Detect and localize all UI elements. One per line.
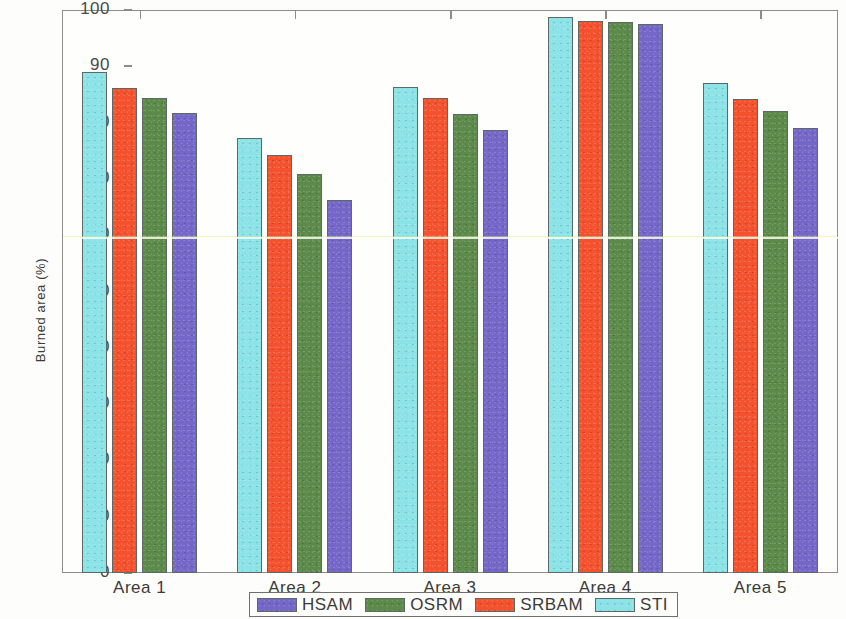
- legend-label-srbam: SRBAM: [520, 595, 583, 615]
- legend-entry-srbam: SRBAM: [475, 595, 583, 615]
- bar-osrm-area-4: [608, 22, 633, 573]
- x-axis-tick-mark-top: [450, 10, 452, 19]
- legend-entry-hsam: HSAM: [257, 595, 353, 615]
- bar-sti-area-1: [82, 72, 107, 573]
- legend-label-sti: STI: [640, 595, 668, 615]
- legend-entry-sti: STI: [595, 595, 668, 615]
- bar-hsam-area-3: [483, 130, 508, 573]
- legend-swatch-sti: [595, 598, 635, 612]
- chart-legend: HSAMOSRMSRBAMSTI: [249, 592, 678, 617]
- legend-label-osrm: OSRM: [410, 595, 463, 615]
- legend-label-hsam: HSAM: [302, 595, 353, 615]
- bar-hsam-area-2: [327, 200, 352, 573]
- bar-srbam-area-2: [267, 155, 292, 573]
- bar-hsam-area-4: [638, 24, 663, 573]
- y-axis-tick-mark: [124, 65, 132, 67]
- bar-sti-area-3: [393, 87, 418, 573]
- legend-entry-osrm: OSRM: [365, 595, 463, 615]
- x-axis-label: Area 5: [734, 578, 787, 598]
- x-axis-tick-mark-top: [140, 10, 142, 19]
- bar-osrm-area-2: [297, 174, 322, 573]
- x-axis-tick-mark-top: [605, 10, 607, 19]
- bar-sti-area-5: [703, 83, 728, 573]
- y-axis-tick-mark: [124, 9, 132, 11]
- legend-swatch-hsam: [257, 598, 297, 612]
- plot-area: 0102030405060708090100: [62, 10, 838, 573]
- bar-srbam-area-3: [423, 98, 448, 573]
- y-axis-tick-label: 100: [80, 0, 110, 19]
- bar-osrm-area-3: [453, 114, 478, 573]
- y-axis-title: Burned area (%): [33, 200, 48, 420]
- x-axis-tick-mark-top: [295, 10, 297, 19]
- bar-srbam-area-5: [733, 99, 758, 573]
- legend-swatch-osrm: [365, 598, 405, 612]
- legend-swatch-srbam: [475, 598, 515, 612]
- bar-srbam-area-4: [578, 21, 603, 573]
- bar-sti-area-4: [548, 17, 573, 573]
- bar-hsam-area-1: [172, 113, 197, 573]
- x-axis-label: Area 1: [113, 578, 166, 598]
- y-axis-title-wrap: Burned area (%): [22, 0, 23, 619]
- bar-chart-figure: Burned area (%) 0102030405060708090100 A…: [0, 0, 846, 619]
- bar-srbam-area-1: [112, 88, 137, 573]
- x-axis-tick-mark-top: [760, 10, 762, 19]
- bar-osrm-area-5: [763, 111, 788, 573]
- bar-osrm-area-1: [142, 98, 167, 573]
- bar-hsam-area-5: [793, 128, 818, 573]
- bar-sti-area-2: [237, 138, 262, 573]
